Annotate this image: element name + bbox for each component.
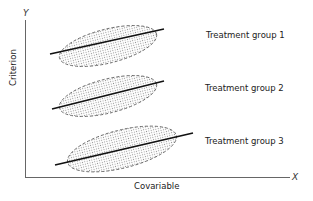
group-2-label: Treatment group 2 xyxy=(205,83,284,93)
group-3-label: Treatment group 3 xyxy=(205,136,284,146)
y-axis-label: Criterion xyxy=(8,49,18,86)
x-axis-label: Covariable xyxy=(134,181,179,191)
group-1-scatter xyxy=(50,17,164,74)
y-axis-letter: Y xyxy=(23,8,29,18)
group-2-scatter xyxy=(52,67,164,124)
group-1-label: Treatment group 1 xyxy=(206,30,285,40)
x-axis-letter: X xyxy=(292,172,298,182)
ancova-diagram: Y X Criterion Covariable Treatment group… xyxy=(0,0,313,201)
group-3-scatter xyxy=(55,117,193,181)
